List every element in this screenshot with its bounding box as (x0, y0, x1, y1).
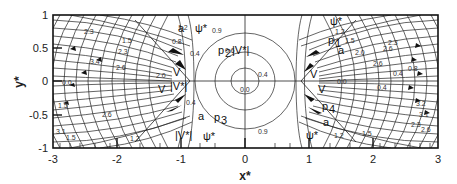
svg-text:V: V (318, 83, 326, 95)
svg-text:1.5: 1.5 (122, 37, 132, 44)
svg-text:ψ*: ψ* (203, 130, 216, 142)
svg-text:0.8: 0.8 (172, 38, 182, 45)
svg-text:2: 2 (225, 47, 231, 59)
svg-text:1: 1 (42, 9, 48, 21)
svg-text:2.6: 2.6 (373, 60, 383, 67)
svg-text:1.5: 1.5 (362, 130, 372, 137)
x-axis-title: x* (239, 169, 251, 183)
svg-text:3.2: 3.2 (416, 100, 426, 107)
svg-text:p: p (322, 100, 328, 112)
svg-text:3.4: 3.4 (90, 58, 100, 65)
svg-text:V: V (158, 83, 166, 95)
svg-text:p: p (328, 34, 334, 46)
svg-text:3.1: 3.1 (56, 128, 66, 135)
svg-text:0.4: 0.4 (393, 70, 403, 77)
svg-text:0.8: 0.8 (408, 65, 418, 72)
svg-text:|V*|: |V*| (175, 129, 192, 141)
x-tick-labels: -3 -2 -1 0 1 2 3 (48, 153, 441, 165)
svg-text:0.4: 0.4 (377, 84, 387, 91)
svg-text:2.0: 2.0 (156, 72, 166, 79)
svg-text:-1: -1 (38, 142, 48, 154)
y-axis-title: y* (12, 76, 26, 88)
svg-text:0.9: 0.9 (258, 128, 268, 135)
svg-text:1.2: 1.2 (335, 28, 345, 35)
contour-chart: 2.3 1.5 2.3 3.4 2.6 0.0 1.5 2.6 3.1 1.5 … (0, 0, 457, 184)
svg-text:0.4: 0.4 (258, 71, 268, 78)
svg-text:a: a (323, 116, 330, 128)
svg-text:2.6: 2.6 (116, 64, 126, 71)
plot-area (40, 15, 451, 148)
svg-text:0.0: 0.0 (240, 86, 250, 93)
svg-text:0.0: 0.0 (337, 78, 347, 85)
svg-text:2.6: 2.6 (102, 111, 112, 118)
svg-text:0.4: 0.4 (186, 99, 196, 106)
svg-text:4: 4 (329, 103, 335, 115)
svg-text:p: p (214, 111, 220, 123)
svg-text:0.0: 0.0 (62, 79, 72, 86)
svg-text:3: 3 (435, 153, 441, 165)
svg-text:V: V (173, 66, 181, 78)
svg-text:ψ*: ψ* (330, 15, 343, 27)
svg-text:-0.5: -0.5 (29, 109, 48, 121)
svg-text:-1: -1 (176, 153, 186, 165)
svg-text:3.1: 3.1 (419, 111, 429, 118)
svg-text:-3: -3 (48, 153, 58, 165)
svg-text:1: 1 (306, 153, 312, 165)
svg-text:1.5: 1.5 (58, 102, 68, 109)
svg-text:3: 3 (221, 114, 227, 126)
svg-text:p: p (218, 44, 224, 56)
svg-text:2.6: 2.6 (383, 45, 393, 52)
svg-text:a: a (178, 22, 185, 34)
svg-text:2.3: 2.3 (84, 28, 94, 35)
y-tick-labels: 1 0.5 0 -0.5 -1 (29, 9, 48, 154)
svg-text:0.4: 0.4 (190, 50, 200, 57)
svg-text:-2: -2 (112, 153, 122, 165)
svg-text:1.5: 1.5 (345, 37, 355, 44)
plot-frame (53, 15, 438, 148)
svg-text:1.5: 1.5 (66, 134, 76, 141)
svg-text:|V*|: |V*| (232, 44, 249, 56)
svg-text:0.5: 0.5 (33, 42, 48, 54)
annotations: a ψ* p2 |V*| p1 a ψ* V V |V*| V V p3 p4 … (158, 15, 345, 142)
svg-text:0.9: 0.9 (212, 27, 222, 34)
svg-text:2.6: 2.6 (421, 126, 431, 133)
svg-text:2.3: 2.3 (118, 48, 128, 55)
svg-text:ψ*: ψ* (195, 22, 208, 34)
svg-text:2: 2 (370, 153, 376, 165)
svg-text:a: a (338, 44, 345, 56)
svg-text:V: V (310, 68, 318, 80)
svg-text:0: 0 (42, 75, 48, 87)
svg-text:2.0: 2.0 (355, 49, 365, 56)
svg-text:|V*|: |V*| (170, 80, 187, 92)
svg-text:1.2: 1.2 (130, 135, 140, 142)
svg-text:ψ*: ψ* (306, 129, 319, 141)
svg-text:1.2: 1.2 (334, 132, 344, 139)
svg-text:0: 0 (242, 153, 248, 165)
svg-text:a: a (198, 110, 205, 122)
svg-text:2.3: 2.3 (411, 121, 421, 128)
